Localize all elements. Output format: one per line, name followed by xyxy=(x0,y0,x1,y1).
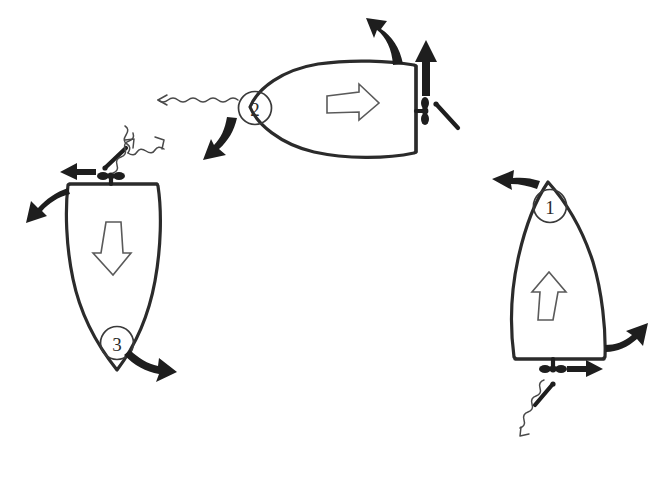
boat-3-stern-swing-down-left-arrow xyxy=(26,188,70,223)
boat-3-label-text: 3 xyxy=(112,334,122,355)
boat-2-bow-swing-down-arrow xyxy=(203,117,237,160)
boat-1-tiller-pin xyxy=(535,381,556,405)
boat-1-stern-swing-right-arrow xyxy=(605,323,648,352)
boat-1-outboard-propeller xyxy=(539,359,567,373)
boat-2-group: 2 xyxy=(158,18,458,160)
boat-2-stern-thrust-up-arrow xyxy=(415,40,437,96)
boat-2-label-badge: 2 xyxy=(239,92,272,125)
boat-2-tiller-pin xyxy=(433,101,458,128)
boat-1-label-text: 1 xyxy=(545,197,555,218)
boat-1-bow-swing-left-arrow xyxy=(492,170,540,190)
boat-1-stern-thrust-right-arrow xyxy=(567,360,603,377)
boat-3-stern-thrust-left-arrow xyxy=(60,163,96,180)
boat-1-prop-wash-wavy-arrow xyxy=(520,380,544,436)
boat-1-group: 1 xyxy=(492,170,648,436)
boat-1-label-badge: 1 xyxy=(534,190,567,223)
boat-2-outboard-propeller xyxy=(416,97,429,125)
boat-2-label-text: 2 xyxy=(250,99,260,120)
boat-2-prop-wash-wavy-arrow xyxy=(158,95,238,105)
boat-3-outboard-propeller xyxy=(97,172,125,184)
diagram-canvas: 2 xyxy=(0,0,666,477)
boat-3-group: 3 xyxy=(26,133,177,382)
boat-3-tiller-pin xyxy=(102,148,126,171)
boat-3-bow-swing-right-arrow xyxy=(124,350,177,382)
boat-2-stern-swing-up-left-arrow xyxy=(366,18,403,65)
